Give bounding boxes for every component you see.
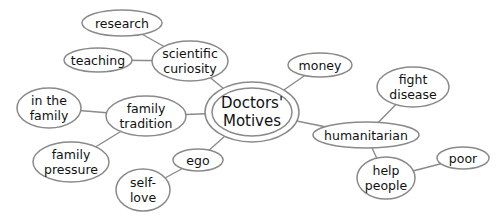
node-label: self- — [130, 175, 156, 190]
node-label: love — [130, 190, 157, 205]
node-label: family — [30, 108, 69, 123]
node-label: humanitarian — [324, 128, 408, 143]
node-label: curiosity — [163, 61, 217, 76]
node-label: help — [372, 163, 399, 178]
node-research: research — [82, 10, 162, 36]
node-teaching: teaching — [64, 48, 132, 72]
node-label: poor — [449, 151, 478, 166]
node-label: ego — [186, 153, 209, 168]
node-fight-disease: fightdisease — [377, 67, 449, 107]
node-center: Doctors'Motives — [205, 82, 299, 142]
node-label: people — [365, 178, 408, 193]
node-label: fight — [399, 72, 428, 87]
node-ego: ego — [173, 149, 223, 171]
node-label: in the — [31, 93, 67, 108]
concept-map: researchteachingscientificcuriosityin th… — [0, 0, 503, 218]
node-self-love: self-love — [116, 169, 170, 211]
node-money: money — [288, 53, 352, 77]
node-poor: poor — [437, 147, 489, 169]
node-scientific-curiosity: scientificcuriosity — [152, 41, 228, 81]
node-label: research — [95, 16, 149, 31]
node-label: money — [299, 58, 342, 73]
node-label: disease — [389, 87, 437, 102]
node-humanitarian: humanitarian — [313, 122, 419, 148]
node-label: pressure — [44, 162, 98, 177]
node-label: Doctors' — [221, 94, 283, 112]
node-label: family — [127, 101, 166, 116]
node-label: teaching — [71, 53, 125, 68]
node-label: scientific — [162, 46, 218, 61]
node-label: Motives — [223, 112, 281, 130]
node-family-tradition: familytradition — [106, 96, 186, 136]
node-in-the-family: in thefamily — [17, 88, 81, 128]
node-help-people: helppeople — [357, 157, 415, 199]
node-label: family — [52, 147, 91, 162]
node-label: tradition — [119, 116, 172, 131]
node-family-pressure: familypressure — [33, 142, 109, 182]
